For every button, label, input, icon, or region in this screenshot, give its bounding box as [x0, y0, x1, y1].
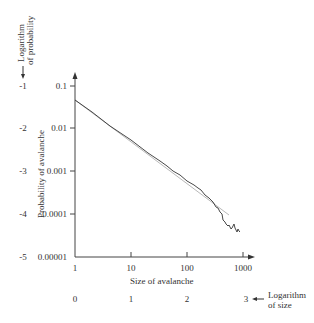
y-tick-label: 0.1	[56, 81, 67, 91]
log-y-tick-label: -4	[19, 209, 27, 219]
y-tick-label: 0.01	[51, 123, 67, 133]
x-axis-arrow-icon	[248, 255, 255, 260]
y-axis-label: Probability of avalanche	[36, 130, 46, 218]
down-arrow-head-icon	[21, 74, 25, 79]
x-tick-label: 100	[180, 263, 194, 273]
left-arrow-head-icon	[252, 297, 257, 301]
log-x-tick-label: 0	[73, 294, 78, 304]
avalanche-chart: 0.1 0.01 0.001 0.0001 0.00001 -1 -2 -3 -…	[0, 0, 314, 323]
log-x-tick-label: 2	[185, 294, 190, 304]
data-line	[75, 100, 240, 232]
x-tick-label: 10	[127, 263, 137, 273]
y-tick-label: 0.00001	[38, 252, 67, 262]
y-ticks	[70, 86, 75, 214]
log-y-title-line2: of probability	[25, 15, 35, 65]
log-y-tick-label: -2	[19, 123, 27, 133]
x-ticks	[131, 252, 243, 257]
y-tick-label: 0.001	[47, 166, 67, 176]
log-x-title-line1: Logarithm	[268, 290, 306, 300]
log-y-tick-label: -1	[19, 81, 27, 91]
log-x-title-line2: of size	[268, 300, 292, 310]
x-tick-label: 1000	[234, 263, 253, 273]
x-axis-label: Size of avalanche	[130, 276, 193, 286]
y-axis-arrow-icon	[73, 72, 78, 79]
x-tick-label: 1	[73, 263, 78, 273]
log-x-tick-label: 3	[244, 294, 249, 304]
log-y-tick-label: -5	[19, 252, 27, 262]
log-x-tick-label: 1	[129, 294, 134, 304]
log-y-tick-label: -3	[19, 166, 27, 176]
